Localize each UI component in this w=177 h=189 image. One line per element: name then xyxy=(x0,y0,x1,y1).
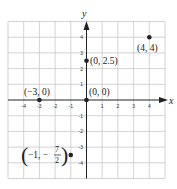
svg-text:1: 1 xyxy=(101,103,104,109)
svg-text:−1, −: −1, − xyxy=(28,150,48,160)
svg-text:-3: -3 xyxy=(79,144,84,150)
svg-text:-1: -1 xyxy=(69,103,74,109)
label-0-0: (0, 0) xyxy=(89,87,110,98)
svg-text:4: 4 xyxy=(148,103,151,109)
label-neg3-0: (−3, 0) xyxy=(24,87,50,98)
svg-text:7: 7 xyxy=(55,145,59,154)
point-0-2.5 xyxy=(84,59,89,64)
label-neg1-neg7over2: ( −1, − 7 2 ) xyxy=(21,142,68,167)
point-4-4 xyxy=(147,35,152,40)
svg-text:2: 2 xyxy=(80,66,83,72)
svg-text:-2: -2 xyxy=(79,128,84,134)
svg-text:-4: -4 xyxy=(79,160,84,166)
point-0-0 xyxy=(84,98,89,103)
label-4-4: (4, 4) xyxy=(137,43,158,54)
point-neg3-0 xyxy=(37,98,42,103)
svg-text:3: 3 xyxy=(132,103,135,109)
label-0-2.5: (0, 2.5) xyxy=(90,56,118,67)
y-axis-label: y xyxy=(81,8,87,19)
svg-text:): ) xyxy=(61,142,68,167)
x-axis-arrow-icon xyxy=(159,97,168,103)
svg-text:-1: -1 xyxy=(79,113,84,119)
coordinate-plane: x y -4 -3 -2 -1 1 2 3 4 4 3 2 1 -1 -2 -3… xyxy=(0,0,177,189)
svg-text:3: 3 xyxy=(80,50,83,56)
svg-text:4: 4 xyxy=(80,34,83,40)
svg-text:-3: -3 xyxy=(37,103,42,109)
svg-text:2: 2 xyxy=(55,156,59,165)
x-axis-label: x xyxy=(168,95,174,106)
svg-text:-4: -4 xyxy=(21,103,26,109)
svg-text:1: 1 xyxy=(80,81,83,87)
svg-text:2: 2 xyxy=(117,103,120,109)
svg-text:-2: -2 xyxy=(53,103,58,109)
point-neg1-neg3.5 xyxy=(69,153,74,158)
y-axis-arrow-icon xyxy=(84,21,90,30)
